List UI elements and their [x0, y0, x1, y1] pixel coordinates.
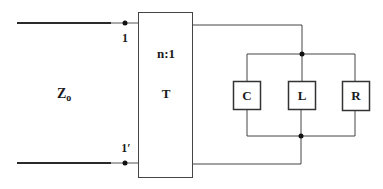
transformer-ratio-label: n:1: [157, 46, 175, 61]
source-impedance-label: Zo: [57, 86, 71, 103]
capacitor-component: C: [234, 82, 261, 110]
resistor-label: R: [351, 88, 361, 103]
top-junction-dot: [300, 52, 305, 57]
inductor-label: L: [298, 88, 307, 103]
circuit-diagram: 1 1′ Zo n:1 T C L R: [0, 0, 383, 189]
output-wire-top: [192, 25, 302, 54]
bottom-junction-dot: [299, 134, 304, 139]
terminal-1prime-label: 1′: [121, 141, 130, 155]
capacitor-label: C: [242, 88, 251, 103]
transformer-name-label: T: [162, 86, 171, 101]
source-impedance-main: Z: [57, 86, 66, 101]
terminal-1-label: 1: [122, 31, 128, 45]
terminal-1-dot: [123, 21, 128, 26]
top-bus: [247, 54, 355, 81]
source-impedance-subscript: o: [66, 92, 71, 103]
terminal-1prime-dot: [123, 161, 128, 166]
resistor-component: R: [343, 82, 370, 111]
inductor-component: L: [289, 82, 316, 110]
output-wire-bottom: [192, 136, 301, 164]
